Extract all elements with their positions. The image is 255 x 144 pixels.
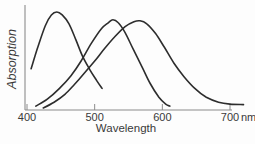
absorption-curve-short [31,12,102,88]
y-axis-label: Absorption [5,29,19,90]
x-tick-label: 400 [18,111,36,123]
x-axis-label: Wavelength [96,122,156,134]
x-axis-ticks [27,104,230,110]
spectra-svg: 400500600700 Absorption Wavelength nm [0,0,255,144]
absorption-curve-middle [36,20,170,106]
absorption-spectra-figure: 400500600700 Absorption Wavelength nm [0,0,255,144]
x-unit-label: nm [241,111,255,123]
x-tick-label: 700 [221,111,239,123]
